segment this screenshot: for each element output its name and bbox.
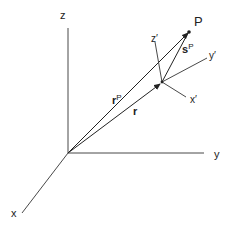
z-axis-label: z <box>60 9 66 21</box>
local-origin-dot <box>161 81 164 84</box>
y-prime-label: y′ <box>209 50 216 61</box>
vector-rP <box>68 33 188 153</box>
r-label: r <box>133 105 138 117</box>
x-axis <box>22 153 68 213</box>
diagram-canvas: z y x z′ y′ x′ P rP r sP <box>0 0 231 229</box>
z-prime-axis <box>155 42 162 82</box>
point-P-dot <box>187 30 191 34</box>
sP-label: sP <box>182 42 193 55</box>
sP-label-sup: P <box>188 42 193 51</box>
x-prime-label: x′ <box>190 94 197 105</box>
z-prime-label: z′ <box>151 33 158 44</box>
rP-label-sup: P <box>116 93 121 102</box>
y-axis-label: y <box>214 148 220 160</box>
point-P-label: P <box>194 14 203 29</box>
x-axis-label: x <box>11 207 17 219</box>
x-prime-axis <box>162 82 186 97</box>
